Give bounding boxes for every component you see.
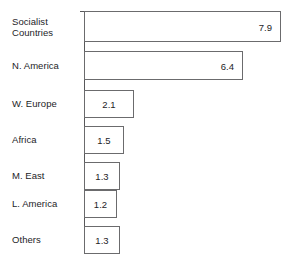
category-label: N. America <box>12 60 59 72</box>
bar-row: Socialist Countries7.9 <box>0 11 296 42</box>
bar-row: N. America6.4 <box>0 51 296 80</box>
bar-value-label: 1.3 <box>85 235 119 246</box>
bar: 1.2 <box>84 190 117 218</box>
bar: 1.3 <box>84 162 120 190</box>
bar-row: M. East1.3 <box>0 162 296 190</box>
bar: 1.3 <box>84 226 120 254</box>
category-label: M. East <box>12 170 45 182</box>
category-label: Africa <box>12 134 37 146</box>
category-label: Others <box>12 234 41 246</box>
bar: 2.1 <box>84 90 134 118</box>
bar-value-label: 1.3 <box>85 171 119 182</box>
bar-value-label: 1.5 <box>85 135 123 146</box>
bar-chart: Socialist Countries7.9N. America6.4W. Eu… <box>0 0 296 266</box>
bar-value-label: 7.9 <box>259 21 272 32</box>
bar-row: L. America1.2 <box>0 190 296 218</box>
bar-value-label: 1.2 <box>85 199 116 210</box>
bar: 7.9 <box>84 11 281 42</box>
bar-value-label: 2.1 <box>85 99 133 110</box>
category-label: L. America <box>12 198 57 210</box>
category-label: W. Europe <box>12 98 57 110</box>
bar-value-label: 6.4 <box>221 60 234 71</box>
bar-row: Others1.3 <box>0 226 296 254</box>
bar-row: Africa1.5 <box>0 126 296 154</box>
bar-row: W. Europe2.1 <box>0 90 296 118</box>
bar: 6.4 <box>84 51 243 80</box>
bar: 1.5 <box>84 126 124 154</box>
category-label: Socialist Countries <box>12 15 53 38</box>
